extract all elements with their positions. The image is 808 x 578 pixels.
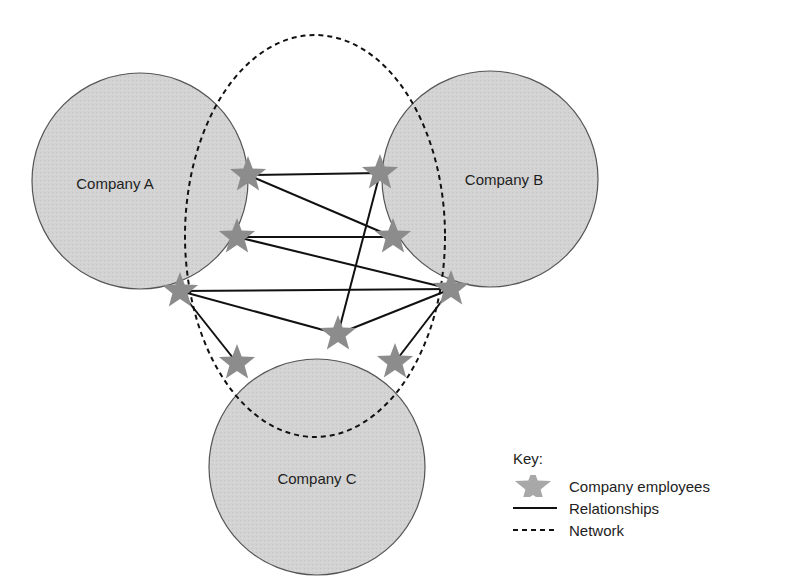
legend-label: Company employees: [569, 478, 710, 495]
relationship-line: [180, 289, 451, 291]
employee-star-icon: [377, 343, 413, 377]
company-c-label: Company C: [277, 470, 356, 487]
legend-item-employees: Company employees: [513, 475, 710, 497]
legend-title: Key:: [513, 450, 710, 467]
employee-star-icon: [219, 344, 255, 378]
solid-line-icon: [513, 497, 559, 519]
employee-star-icon: [320, 315, 356, 349]
company-b-label: Company B: [465, 171, 543, 188]
star-icon: [513, 475, 559, 497]
legend-label: Network: [569, 522, 624, 539]
company-c-circle: [209, 359, 425, 575]
legend-item-relationships: Relationships: [513, 497, 710, 519]
relationship-line: [248, 173, 380, 175]
legend-item-network: Network: [513, 519, 710, 541]
relationship-line: [338, 173, 380, 334]
legend-label: Relationships: [569, 500, 659, 517]
relationship-line: [180, 291, 338, 334]
dashed-line-icon: [513, 519, 559, 541]
company-a-label: Company A: [76, 175, 154, 192]
legend: Key: Company employees Relationships Net…: [513, 450, 710, 541]
